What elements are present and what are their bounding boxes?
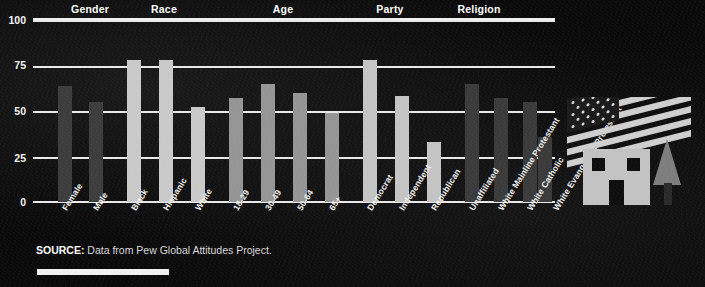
gridline-100 bbox=[33, 20, 555, 22]
y-tick-label-50: 50 bbox=[0, 105, 26, 117]
chart-figure: 100 75 50 25 0 Gender Race Age Party Rel… bbox=[0, 0, 705, 287]
house-door-icon bbox=[609, 180, 624, 205]
group-header-race: Race bbox=[129, 3, 199, 15]
bar-18-29 bbox=[229, 98, 243, 202]
gridline-75 bbox=[33, 66, 555, 68]
source-prefix: SOURCE: bbox=[36, 244, 84, 256]
source-text: Data from Pew Global Attitudes Project. bbox=[84, 244, 271, 256]
plot-area bbox=[33, 20, 555, 202]
header-rule bbox=[33, 18, 555, 20]
y-tick-label-75: 75 bbox=[0, 59, 26, 71]
y-tick-label-25: 25 bbox=[0, 152, 26, 164]
bar-50-64 bbox=[293, 93, 307, 202]
source-note: SOURCE: Data from Pew Global Attitudes P… bbox=[36, 244, 272, 256]
group-header-religion: Religion bbox=[444, 3, 514, 15]
tree-icon bbox=[653, 139, 681, 205]
bar-white bbox=[191, 107, 205, 202]
bar-male bbox=[89, 102, 103, 202]
bar-30-49 bbox=[261, 84, 275, 202]
y-tick-label-0: 0 bbox=[0, 196, 26, 208]
bar-democrat bbox=[363, 60, 377, 202]
bar-65-plus bbox=[325, 113, 339, 202]
group-header-age: Age bbox=[248, 3, 318, 15]
bar-white-mainline-protestant bbox=[494, 98, 508, 202]
source-underline-bar bbox=[37, 269, 169, 275]
bar-black bbox=[127, 60, 141, 202]
bar-independent bbox=[395, 96, 409, 202]
y-tick-label-100: 100 bbox=[0, 14, 26, 26]
house-window-left-icon bbox=[592, 158, 605, 171]
bar-hispanic bbox=[159, 60, 173, 202]
bar-female bbox=[58, 86, 72, 203]
house-window-right-icon bbox=[627, 158, 640, 171]
house-with-american-flag-roof-graphic bbox=[565, 97, 697, 205]
group-header-gender: Gender bbox=[55, 3, 125, 15]
bar-unaffiliated bbox=[465, 84, 479, 202]
group-header-party: Party bbox=[355, 3, 425, 15]
